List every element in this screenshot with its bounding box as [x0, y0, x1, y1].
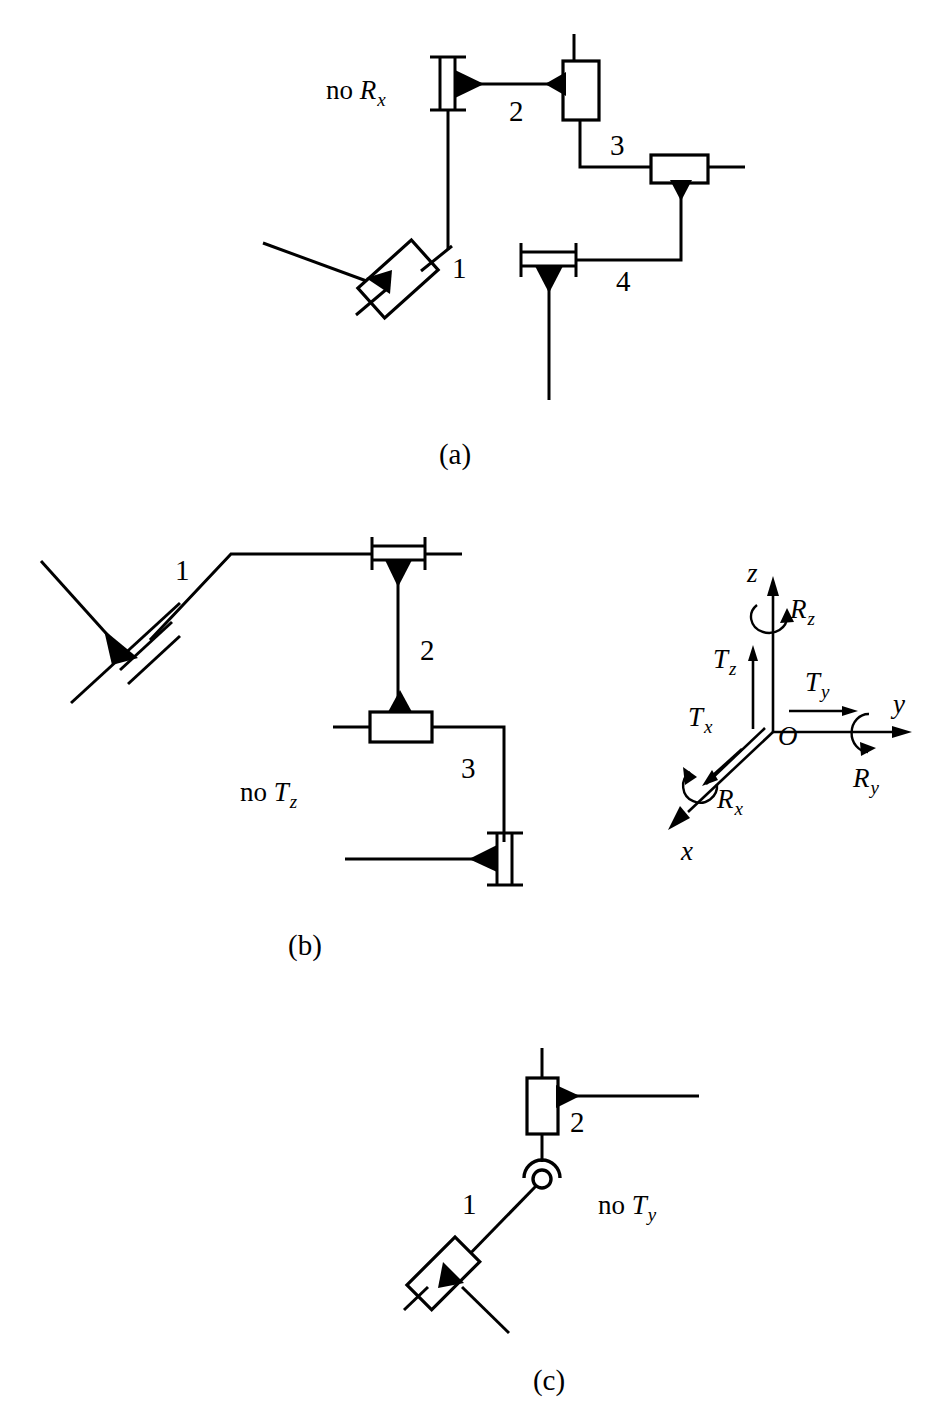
panel-c-caption: (c)	[533, 1364, 565, 1397]
panel-a-link-2-label: 2	[509, 95, 524, 127]
panel-b-caption: (b)	[288, 929, 322, 962]
panel-a-cylindrical-joint-horizontal	[521, 243, 576, 400]
axis-y-arrowhead	[892, 726, 912, 738]
rotation-x-label: Rx	[716, 784, 744, 819]
panel-b-link-3-label: 3	[461, 752, 476, 784]
panel-a-link-3-label: 3	[610, 129, 625, 161]
rotation-z-label: Rz	[789, 594, 816, 629]
panel-c-ground-line-right	[462, 1287, 509, 1333]
translation-y-label: Ty	[805, 667, 830, 702]
panel-c-link-1-label: 1	[462, 1188, 477, 1220]
panel-a-prismatic-joint-vertical	[545, 34, 599, 120]
figure-root: 1 2 3	[0, 0, 938, 1423]
panel-a-caption: (a)	[439, 438, 471, 471]
panel-b-constraint-label: no Tz	[240, 777, 298, 812]
panel-a-constraint-label: no Rx	[326, 75, 386, 110]
panel-b: 1 2 3	[41, 537, 523, 962]
panel-c: 2 1 no Ty (c)	[404, 1048, 699, 1397]
translation-z-arrowhead	[748, 645, 758, 661]
panel-b-link-3	[432, 727, 504, 842]
panel-b-prismatic-joint-horizontal	[333, 690, 432, 742]
axis-x-label: x	[680, 836, 693, 866]
axis-x-arrowhead	[668, 806, 690, 830]
panel-a-link-4-label: 4	[616, 265, 631, 297]
translation-x-label: Tx	[688, 702, 713, 737]
panel-a-cylindrical-joint-vertical	[430, 57, 484, 110]
translation-z-label: Tz	[713, 644, 737, 679]
axis-y-label: y	[890, 689, 905, 719]
translation-y-arrowhead	[842, 706, 858, 716]
panel-a-link-1-label: 1	[452, 252, 467, 284]
coordinate-frame: z y x O Tz Ty	[668, 558, 912, 866]
rotation-z-arc	[751, 605, 787, 633]
panel-c-revolute-circle	[533, 1170, 551, 1188]
axis-z-arrowhead	[767, 576, 779, 596]
cyl-b-bar-1	[120, 622, 172, 670]
rotation-y-label: Ry	[852, 763, 880, 798]
panel-a: 1 2 3	[263, 34, 745, 471]
panel-c-link-2-label: 2	[570, 1106, 585, 1138]
panel-a-ground-line-1	[263, 243, 372, 283]
kinematic-chain-figure: 1 2 3	[0, 0, 938, 1423]
panel-b-cylindrical-joint-vertical	[345, 833, 523, 885]
rotation-x-arrowhead	[683, 767, 697, 785]
panel-c-revolute-joint	[524, 1160, 560, 1188]
panel-b-input-line	[41, 561, 113, 641]
panel-c-prismatic-joint-vertical	[527, 1048, 699, 1134]
panel-a-prismatic-joint-horizontal	[651, 155, 745, 201]
panel-b-link-1-label: 1	[175, 554, 190, 586]
panel-a-link-4	[576, 195, 681, 260]
panel-b-cylindrical-joint-horizontal	[372, 537, 462, 587]
rotation-y-arrowhead	[860, 742, 876, 756]
panel-a-arrowhead-3	[545, 72, 566, 96]
axis-z-label: z	[746, 558, 758, 588]
origin-label: O	[778, 721, 798, 751]
panel-b-arrowhead-3	[388, 690, 412, 712]
panel-c-constraint-label: no Ty	[598, 1190, 657, 1225]
panel-b-link-2-label: 2	[420, 634, 435, 666]
translation-x-arrow-shaft	[711, 749, 742, 777]
